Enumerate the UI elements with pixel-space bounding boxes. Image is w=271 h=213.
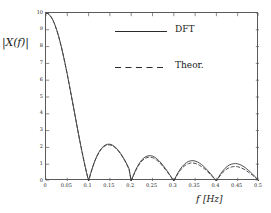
legend-label-dft: DFT: [175, 24, 194, 34]
y-axis-label: |X(f)|: [2, 36, 29, 49]
y-tick-label: 5: [29, 94, 43, 99]
y-tick-label: 10: [29, 10, 43, 15]
x-tick-label: 0.25: [146, 183, 157, 188]
legend-label-theor: Theor.: [175, 60, 204, 70]
x-tick-label: 0: [43, 183, 46, 188]
y-tick-label: 7: [29, 60, 43, 65]
x-tick-label: 0.1: [84, 183, 92, 188]
x-tick-label: 0.3: [169, 183, 177, 188]
y-axis-tick-labels: 012345678910: [27, 0, 43, 213]
x-axis-label-unit: [Hz]: [203, 194, 223, 204]
x-tick-label: 0.45: [231, 183, 242, 188]
legend-entry-theor: Theor.: [113, 60, 243, 74]
legend-entry-dft: DFT: [113, 24, 243, 38]
y-tick-label: 3: [29, 127, 43, 132]
x-tick-label: 0.5: [254, 183, 262, 188]
x-axis-tick-labels: 00.050.10.150.20.250.30.350.40.450.5: [0, 183, 271, 193]
chart-figure: |X(f)| 012345678910 00.050.10.150.20.250…: [0, 0, 271, 213]
y-tick-label: 4: [29, 110, 43, 115]
legend: DFT Theor.: [113, 24, 243, 80]
legend-swatch-solid: [115, 30, 167, 32]
y-tick-label: 1: [29, 161, 43, 166]
x-tick-label: 0.2: [126, 183, 134, 188]
y-tick-label: 0: [29, 178, 43, 183]
x-tick-label: 0.15: [103, 183, 114, 188]
y-tick-label: 2: [29, 144, 43, 149]
x-tick-label: 0.4: [211, 183, 219, 188]
x-tick-label: 0.05: [61, 183, 72, 188]
x-axis-label: f [Hz]: [196, 193, 223, 204]
y-tick-label: 6: [29, 77, 43, 82]
y-tick-label: 8: [29, 43, 43, 48]
x-axis-label-symbol: f: [196, 193, 200, 204]
legend-swatch-dashed: [115, 66, 167, 68]
x-tick-label: 0.35: [189, 183, 200, 188]
y-tick-label: 9: [29, 26, 43, 31]
